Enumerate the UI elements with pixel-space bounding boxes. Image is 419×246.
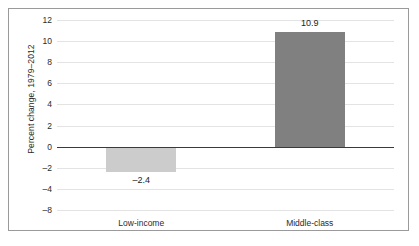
y-axis-tick-label: 0 [18, 142, 52, 152]
y-axis-tick-label: –2 [18, 163, 52, 173]
y-axis-tick-label: 10 [18, 36, 52, 46]
bar-middle-class [275, 32, 345, 147]
x-axis-tick-label: Low-income [118, 218, 164, 228]
gridline [57, 20, 394, 21]
bar-value-label: –2.4 [132, 175, 150, 185]
chart-figure: Percent change, 1979–2012 121086420–2–4–… [0, 0, 419, 246]
x-axis-tick-label: Middle-class [286, 218, 333, 228]
bar-low-income [106, 147, 176, 172]
y-axis-tick-label: 4 [18, 99, 52, 109]
plot-area: 121086420–2–4–8–2.4Low-income10.9Middle-… [57, 20, 394, 210]
zero-axis-line [57, 147, 394, 148]
y-axis-tick-label: 12 [18, 15, 52, 25]
y-axis-tick-label: –8 [18, 205, 52, 215]
y-axis-tick-label: 6 [18, 78, 52, 88]
y-axis-tick-label: 2 [18, 121, 52, 131]
bar-value-label: 10.9 [301, 18, 319, 28]
y-axis-tick-label: –4 [18, 184, 52, 194]
y-axis-tick-label: 8 [18, 57, 52, 67]
gridline [57, 189, 394, 190]
gridline [57, 210, 394, 211]
